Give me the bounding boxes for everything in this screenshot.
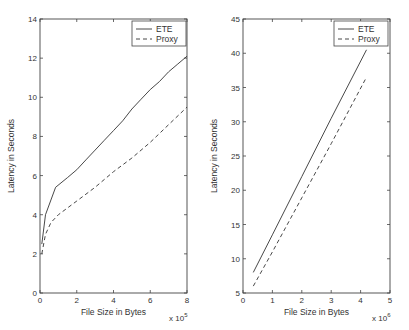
legend-label-ete: ETE	[156, 24, 173, 34]
y-tick-label: 2	[33, 250, 38, 259]
x-axis-label: File Size in Bytes	[81, 307, 146, 317]
x-multiplier-exponent: 5	[184, 312, 188, 318]
x-multiplier-base: x 10	[169, 314, 185, 323]
y-tick-label: 10	[231, 255, 240, 264]
y-axis-label: Latency in Seconds	[6, 119, 16, 193]
x-tick-label: 2	[300, 296, 305, 305]
x-tick-label: 8	[185, 296, 190, 305]
x-axis-label: File Size in Bytes	[284, 307, 349, 317]
y-tick-label: 45	[231, 15, 240, 24]
x-tick-label: 1	[270, 296, 275, 305]
y-tick-label: 0	[33, 289, 38, 298]
series-line-proxy	[253, 77, 366, 286]
plot-frame	[243, 19, 390, 293]
y-tick-label: 4	[33, 211, 38, 220]
series-line-ete	[253, 50, 366, 273]
chart-left: 0246802468101214File Size in BytesLatenc…	[6, 15, 190, 323]
figure: 0246802468101214File Size in BytesLatenc…	[0, 0, 409, 330]
y-axis-label: Latency in Seconds	[209, 119, 219, 193]
y-tick-label: 5	[236, 289, 241, 298]
y-tick-label: 14	[28, 15, 37, 24]
chart-right: 01234551015202530354045File Size in Byte…	[209, 15, 393, 323]
y-tick-label: 8	[33, 132, 38, 141]
y-tick-label: 12	[28, 54, 37, 63]
x-multiplier: x 106	[372, 312, 391, 323]
legend-label-proxy: Proxy	[156, 34, 178, 44]
x-tick-label: 2	[75, 296, 80, 305]
x-multiplier: x 105	[169, 312, 188, 323]
x-tick-label: 0	[241, 296, 246, 305]
x-tick-label: 0	[38, 296, 43, 305]
legend-label-ete: ETE	[358, 24, 375, 34]
legend: ETEProxy	[132, 21, 186, 46]
x-tick-label: 5	[388, 296, 393, 305]
y-tick-label: 40	[231, 49, 240, 58]
y-tick-label: 35	[231, 84, 240, 93]
legend-label-proxy: Proxy	[358, 34, 380, 44]
x-multiplier-base: x 10	[372, 314, 388, 323]
x-tick-label: 4	[111, 296, 116, 305]
legend: ETEProxy	[334, 21, 388, 46]
plot-frame	[40, 19, 187, 293]
y-tick-label: 20	[231, 186, 240, 195]
x-tick-label: 6	[148, 296, 153, 305]
y-tick-label: 6	[33, 172, 38, 181]
y-tick-label: 25	[231, 152, 240, 161]
x-tick-label: 4	[358, 296, 363, 305]
y-tick-label: 30	[231, 118, 240, 127]
y-tick-label: 15	[231, 221, 240, 230]
series-line-ete	[42, 56, 187, 244]
x-multiplier-exponent: 6	[387, 312, 391, 318]
y-tick-label: 10	[28, 93, 37, 102]
x-tick-label: 3	[329, 296, 334, 305]
